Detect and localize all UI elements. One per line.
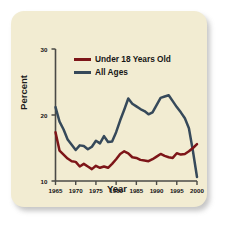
series-group [56, 95, 198, 177]
chart-plot-area: 102030 19651970197519801985199019952000 … [11, 11, 207, 207]
legend-label-all-ages: All Ages [95, 68, 128, 76]
legend-swatch-under-18 [74, 58, 91, 61]
legend-label-under-18: Under 18 Years Old [95, 55, 171, 63]
legend-item-under-18: Under 18 Years Old [74, 55, 171, 63]
legend-swatch-all-ages [74, 71, 91, 74]
x-tick-label: 2000 [186, 187, 207, 194]
y-tick-label: 10 [32, 178, 48, 185]
x-axis-title: Year [57, 183, 177, 194]
y-tick-label: 30 [32, 46, 48, 53]
legend-item-all-ages: All Ages [74, 68, 128, 76]
chart-card: 102030 19651970197519801985199019952000 … [11, 11, 207, 207]
y-tick-label: 20 [32, 112, 48, 119]
y-axis-title: Percent [18, 65, 29, 121]
chart-page: 102030 19651970197519801985199019952000 … [0, 0, 227, 228]
